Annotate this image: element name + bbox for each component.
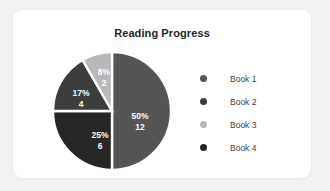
pie-slice-book-2[interactable]: [53, 111, 112, 170]
slice-percent-book-2: 25%: [91, 130, 108, 140]
slice-percent-book-1: 50%: [131, 111, 148, 121]
legend-swatch-icon: [200, 144, 207, 151]
legend-swatch-icon: [200, 121, 207, 128]
slice-value-book-4: 4: [79, 99, 84, 109]
slice-value-book-3: 2: [102, 78, 107, 88]
legend-item-label: Book 2: [230, 97, 256, 107]
slice-value-book-1: 12: [135, 122, 145, 132]
slice-percent-book-4: 17%: [72, 88, 89, 98]
legend-item-label: Book 3: [230, 120, 256, 130]
slice-value-book-2: 6: [98, 141, 103, 151]
legend-item-label: Book 1: [230, 74, 256, 84]
chart-card: Reading Progress 50% 12 25% 6 8% 2 17% 4: [13, 10, 311, 178]
legend-swatch-icon: [200, 98, 207, 105]
legend-item-book-1[interactable]: Book 1: [200, 67, 300, 90]
slice-percent-book-3: 8%: [98, 67, 111, 77]
legend-item-book-3[interactable]: Book 3: [200, 113, 300, 136]
legend-item-label: Book 4: [230, 143, 256, 153]
legend-swatch-icon: [200, 75, 207, 82]
legend-item-book-4[interactable]: Book 4: [200, 136, 300, 159]
legend-item-book-2[interactable]: Book 2: [200, 90, 300, 113]
pie-chart-svg: 50% 12 25% 6 8% 2 17% 4: [51, 50, 173, 172]
pie-chart-plot-area: 50% 12 25% 6 8% 2 17% 4 Book 1 Book 2: [13, 10, 311, 178]
chart-legend: Book 1 Book 2 Book 3 Book 4: [200, 67, 300, 159]
